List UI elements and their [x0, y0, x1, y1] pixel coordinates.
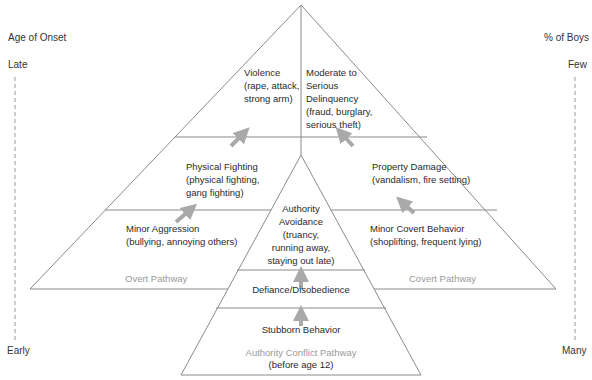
pathways-diagram: Age of Onset Late Early % of Boys Few Ma… — [0, 0, 592, 380]
authority-pathway-note: (before age 12) — [241, 358, 361, 371]
arrow-overt-2 — [231, 133, 244, 146]
arrow-covert-1 — [402, 202, 414, 213]
age-early-label: Early — [7, 344, 30, 357]
level-moderate-serious-delinquency: Moderate to Serious Delinquency (fraud, … — [306, 66, 372, 131]
level-authority-avoidance: Authority Avoidance (truancy, running aw… — [251, 202, 351, 267]
arrow-covert-2 — [341, 133, 353, 146]
boys-many-label: Many — [562, 344, 586, 357]
arrow-overt-1 — [176, 209, 191, 222]
boys-few-label: Few — [568, 58, 587, 71]
age-late-label: Late — [8, 58, 27, 71]
overt-pathway-label: Overt Pathway — [125, 272, 187, 285]
level-minor-aggression: Minor Aggression (bullying, annoying oth… — [126, 222, 237, 248]
age-of-onset-title: Age of Onset — [8, 31, 66, 44]
level-stubborn-behavior: Stubborn Behavior — [241, 323, 361, 336]
level-property-damage: Property Damage (vandalism, fire setting… — [372, 160, 470, 186]
level-defiance-disobedience: Defiance/Disobedience — [231, 283, 371, 296]
level-minor-covert-behavior: Minor Covert Behavior (shoplifting, freq… — [370, 222, 481, 248]
covert-pathway-label: Covert Pathway — [409, 272, 476, 285]
percent-boys-title: % of Boys — [544, 31, 589, 44]
level-physical-fighting: Physical Fighting (physical fighting, ga… — [186, 160, 259, 199]
level-violence: Violence (rape, attack, strong arm) — [244, 66, 299, 105]
